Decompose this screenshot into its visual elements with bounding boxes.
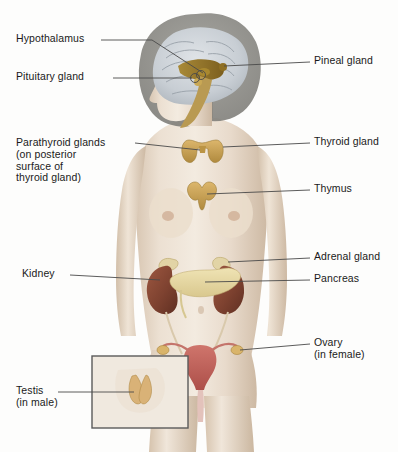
label-thymus: Thymus [314, 183, 352, 195]
label-pituitary-gland: Pituitary gland [16, 71, 84, 83]
label-parathyroid-glands: Parathyroid glands (on posterior surface… [16, 137, 105, 184]
label-pancreas: Pancreas [314, 273, 359, 285]
label-hypothalamus: Hypothalamus [16, 33, 84, 45]
label-adrenal-gland: Adrenal gland [314, 251, 380, 263]
label-kidney: Kidney [22, 268, 55, 280]
label-pineal-gland: Pineal gland [314, 55, 373, 67]
anatomical-illustration [0, 0, 398, 452]
label-ovary: Ovary (in female) [314, 337, 365, 361]
ovary-left [157, 346, 169, 355]
endocrine-system-figure: Hypothalamus Pituitary gland Parathyroid… [0, 0, 398, 452]
pineal-gland-organ [219, 63, 227, 71]
label-thyroid-gland: Thyroid gland [314, 136, 379, 148]
label-testis: Testis (in male) [16, 385, 58, 409]
